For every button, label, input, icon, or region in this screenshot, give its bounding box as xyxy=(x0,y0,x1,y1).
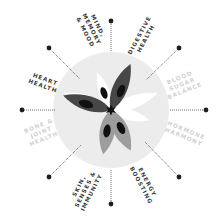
spoke-dot-sw xyxy=(47,175,52,180)
label-energy: ENERGY BOOSTING xyxy=(129,162,160,205)
spoke-dot-ne xyxy=(177,46,182,51)
diagram-canvas: MIND, MEMORY & MOOD DIGESTIVE HEALTH BLO… xyxy=(0,0,222,221)
wellness-radial-diagram: MIND, MEMORY & MOOD DIGESTIVE HEALTH BLO… xyxy=(0,0,222,221)
spoke-sw xyxy=(49,145,81,177)
label-skin: SKIN, SENSES & IMMUNITY xyxy=(67,166,104,212)
spoke-dot-e xyxy=(204,108,209,113)
label-blood-sugar: BLOOD SUGAR BALANCE xyxy=(161,68,203,100)
label-heart: HEART HEALTH xyxy=(28,71,61,94)
spoke-dot-s xyxy=(109,202,114,207)
spoke-dot-se xyxy=(177,175,182,180)
label-digestive: DIGESTIVE HEALTH xyxy=(127,15,159,59)
spoke-dot-nw xyxy=(47,46,52,51)
label-hormone: HORMONE HARMONY xyxy=(164,120,206,147)
spoke-dot-n xyxy=(109,19,114,24)
spoke-dot-w xyxy=(20,108,25,113)
label-mind: MIND, MEMORY & MOOD xyxy=(75,9,108,49)
label-bone: BONE & JOINT HEALTH xyxy=(23,117,59,147)
